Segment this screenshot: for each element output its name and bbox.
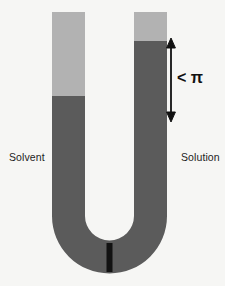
semipermeable-membrane (107, 243, 113, 272)
osmotic-pressure-label: < π (177, 70, 203, 86)
osmotic-height-arrow (167, 38, 176, 122)
solvent-label: Solvent (9, 151, 45, 163)
solution-label: Solution (181, 151, 220, 163)
arrow-head-up (167, 38, 176, 48)
solvent-headspace (52, 0, 85, 96)
u-tube-svg (0, 0, 225, 286)
solution-headspace (134, 0, 167, 41)
arrow-head-down (167, 112, 176, 122)
osmometer-diagram: Solvent Solution < π (0, 0, 225, 286)
